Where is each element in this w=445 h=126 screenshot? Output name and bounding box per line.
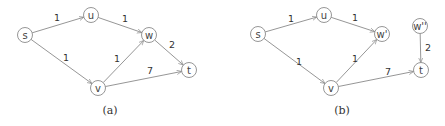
node-v: v [91,81,106,96]
figure-caption-a: (a) [102,104,117,117]
node-label: w [145,30,153,41]
graph-diagram: 111127111172 suwvtsuw'vw''t (a)(b) [0,0,445,126]
node-s: s [251,27,266,42]
node-label: w'' [413,21,427,32]
node-label: t [187,65,191,76]
node-t: t [414,63,429,78]
edge-weight-label: 1 [288,13,294,24]
node-w2: w'' [413,19,428,34]
edge-w2-t [420,33,421,62]
edge-u-w [98,17,142,32]
edge-weight-label: 7 [147,65,153,76]
edge-s-v [31,39,92,83]
node-label: s [22,30,27,41]
node-label: u [321,10,327,21]
node-label: t [419,65,423,76]
edge-weight-label: 2 [425,42,431,53]
node-u: u [84,8,99,23]
edge-s-v [264,38,325,83]
node-v: v [324,81,339,96]
edge-weight-label: 1 [296,56,302,67]
node-w1: w' [375,27,390,42]
node-label: u [88,10,94,21]
edge-weight-label: 1 [54,12,60,23]
node-label: v [95,83,101,94]
figure-caption-b: (b) [334,104,350,117]
edge-v-w [103,40,144,82]
node-label: s [255,29,260,40]
node-label: w' [377,29,388,40]
edge-weight-label: 7 [385,66,391,77]
edge-v-t [105,71,181,86]
node-u: u [317,8,332,23]
edge-weight-label: 1 [352,53,358,64]
node-t: t [182,63,197,78]
edge-weight-label: 1 [122,13,128,24]
edge-weight-label: 1 [63,52,69,63]
node-s: s [18,28,33,43]
node-label: v [328,83,334,94]
node-w: w [142,28,157,43]
edge-weight-label: 1 [114,53,120,64]
edge-v-t [338,71,413,86]
edge-weight-label: 1 [352,12,358,23]
edge-weight-label: 2 [169,39,175,50]
